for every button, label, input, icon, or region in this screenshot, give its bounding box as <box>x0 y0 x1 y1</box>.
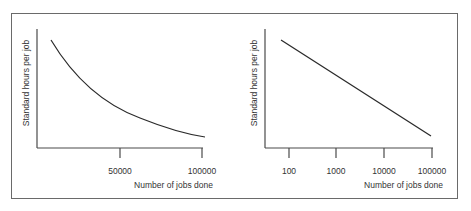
left-tick-label-50000: 50000 <box>108 166 132 176</box>
left-tick-label-100000: 100000 <box>188 166 217 176</box>
right-tick-label-1000: 1000 <box>327 166 346 176</box>
figure-svg: 50000 100000 Number of jobs done Standar… <box>0 0 471 211</box>
right-tick-label-10000: 10000 <box>372 166 396 176</box>
left-learning-curve <box>51 40 205 137</box>
left-x-axis-label: Number of jobs done <box>134 180 213 190</box>
right-tick-label-100000: 100000 <box>418 166 447 176</box>
right-learning-line <box>281 40 431 136</box>
right-tick-label-100: 100 <box>282 166 296 176</box>
left-y-axis-label: Standard hours per job <box>21 39 31 126</box>
left-chart: 50000 100000 Number of jobs done Standar… <box>21 29 216 190</box>
right-y-axis-label: Standard hours per job <box>249 39 259 126</box>
right-x-axis-label: Number of jobs done <box>364 180 443 190</box>
right-chart: 100 1000 10000 100000 Number of jobs don… <box>249 29 446 190</box>
